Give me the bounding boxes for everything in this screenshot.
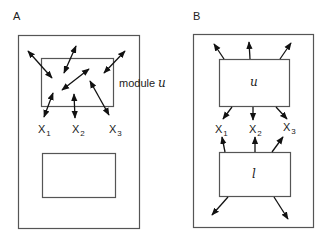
arrow-icon [280,43,291,59]
var-x1: X1 [38,123,51,138]
arrow-icon [223,107,232,119]
arrow-icon [74,94,75,118]
diagram-canvas: A module u X1 X2 X3 B u l [0,0,331,241]
module-l-box [43,154,116,198]
arrow-icon [214,44,224,59]
arrow-icon [104,51,125,73]
panel-b: B u l X1 X2 X3 [193,10,314,228]
panel-b-label: B [193,10,200,22]
arrow-icon [272,137,283,152]
module-l-var-b: l [252,167,256,181]
var-x2: X2 [72,123,85,138]
arrow-icon [90,81,109,115]
arrow-icon [212,197,228,215]
arrow-icon [64,46,76,73]
var-x2-b: X2 [249,123,262,138]
module-u-label: module [119,77,155,89]
arrow-icon [249,42,250,59]
arrow-icon [28,51,52,78]
module-u-var: u [158,76,166,90]
module-u-box [42,59,114,107]
arrow-icon [274,197,288,219]
panel-a-variables: X1 X2 X3 [38,123,122,138]
module-u-var-b: u [250,75,258,89]
panel-a: A module u X1 X2 X3 B u l [13,10,314,229]
var-x3: X3 [109,123,122,138]
panel-a-u-arrows [28,46,125,118]
arrow-icon [44,93,53,117]
panel-b-variables: X1 X2 X3 [215,121,296,138]
var-x1-b: X1 [215,123,228,138]
var-x3-b: X3 [283,121,296,136]
arrow-icon [222,137,225,152]
arrow-icon [276,107,287,119]
arrow-icon [62,69,89,90]
panel-b-l-arrows [212,137,288,219]
panel-a-label: A [13,10,21,22]
